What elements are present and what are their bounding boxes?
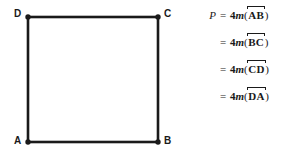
vertex-label-B: B bbox=[164, 136, 171, 146]
equals-sign: = bbox=[216, 63, 230, 75]
equation-row: = 4m(CD) bbox=[200, 63, 291, 79]
equation-rhs: 4m(DA) bbox=[230, 90, 269, 102]
square-outline bbox=[28, 17, 158, 142]
equation-row: = 4m(BC) bbox=[200, 36, 291, 52]
segment-bar-icon bbox=[247, 60, 266, 61]
segment-bar-icon bbox=[247, 6, 265, 7]
segment-notation: AB bbox=[248, 9, 265, 21]
segment-letters: CD bbox=[248, 63, 265, 75]
equation-lhs: P bbox=[200, 9, 216, 21]
perimeter-equation-block: P = 4m(AB) = 4m(BC) = 4m(CD) = 4m(DA) bbox=[200, 0, 291, 158]
segment-letters: DA bbox=[248, 90, 265, 102]
close-paren: ) bbox=[265, 36, 269, 48]
equals-sign: = bbox=[216, 36, 230, 48]
equals-sign: = bbox=[216, 90, 230, 102]
vertex-dot-A bbox=[25, 139, 30, 144]
measure-function: m bbox=[236, 36, 245, 48]
square-diagram: D C B A bbox=[0, 0, 190, 158]
close-paren: ) bbox=[265, 90, 269, 102]
vertex-dot-C bbox=[155, 14, 160, 19]
measure-function: m bbox=[236, 9, 245, 21]
vertex-label-A: A bbox=[14, 136, 21, 146]
square-svg bbox=[0, 0, 190, 158]
segment-letters: AB bbox=[248, 9, 264, 21]
segment-notation: DA bbox=[248, 90, 266, 102]
equation-rhs: 4m(BC) bbox=[230, 36, 268, 48]
vertex-dot-B bbox=[155, 139, 160, 144]
segment-notation: BC bbox=[248, 36, 265, 48]
segment-bar-icon bbox=[247, 33, 265, 34]
equation-row: P = 4m(AB) bbox=[200, 9, 291, 25]
close-paren: ) bbox=[265, 9, 269, 21]
equation-row: = 4m(DA) bbox=[200, 90, 291, 106]
vertex-label-C: C bbox=[164, 9, 171, 19]
vertex-label-D: D bbox=[14, 9, 21, 19]
segment-letters: BC bbox=[248, 36, 264, 48]
segment-notation: CD bbox=[248, 63, 266, 75]
equation-rhs: 4m(CD) bbox=[230, 63, 269, 75]
vertex-dot-D bbox=[25, 14, 30, 19]
segment-bar-icon bbox=[247, 87, 266, 88]
close-paren: ) bbox=[265, 63, 269, 75]
equals-sign: = bbox=[216, 9, 230, 21]
equation-rhs: 4m(AB) bbox=[230, 9, 268, 21]
measure-function: m bbox=[236, 90, 245, 102]
measure-function: m bbox=[236, 63, 245, 75]
figure-page: D C B A P = 4m(AB) = 4m(BC) = 4m(CD) bbox=[0, 0, 291, 158]
